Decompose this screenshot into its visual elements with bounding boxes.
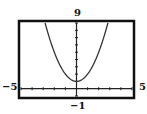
axes bbox=[21, 23, 132, 96]
graph-window bbox=[0, 0, 147, 114]
